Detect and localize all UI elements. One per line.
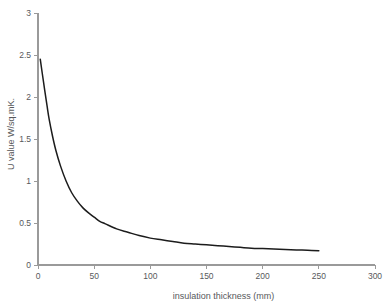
x-tick-label: 300	[368, 271, 382, 281]
x-axis-title: insulation thickness (mm)	[173, 291, 275, 301]
y-tick-label: 0	[26, 260, 31, 270]
y-tick-label: 1	[26, 176, 31, 186]
x-tick-label: 0	[36, 271, 41, 281]
x-tick-label: 250	[312, 271, 326, 281]
x-tick-label: 150	[199, 271, 213, 281]
u-value-line-chart: 00.511.522.53 050100150200250300 insulat…	[0, 0, 391, 308]
x-tick-label: 200	[256, 271, 270, 281]
y-tick-label: 2.5	[19, 50, 31, 60]
y-axis-title: U value W/sq.mK.	[6, 98, 16, 170]
x-tick-label: 100	[143, 271, 157, 281]
chart-container: 00.511.522.53 050100150200250300 insulat…	[0, 0, 391, 308]
y-tick-label: 1.5	[19, 134, 31, 144]
y-tick-label: 3	[26, 8, 31, 18]
chart-background	[0, 0, 391, 308]
y-tick-label: 2	[26, 92, 31, 102]
y-tick-label: 0.5	[19, 218, 31, 228]
x-tick-label: 50	[89, 271, 99, 281]
